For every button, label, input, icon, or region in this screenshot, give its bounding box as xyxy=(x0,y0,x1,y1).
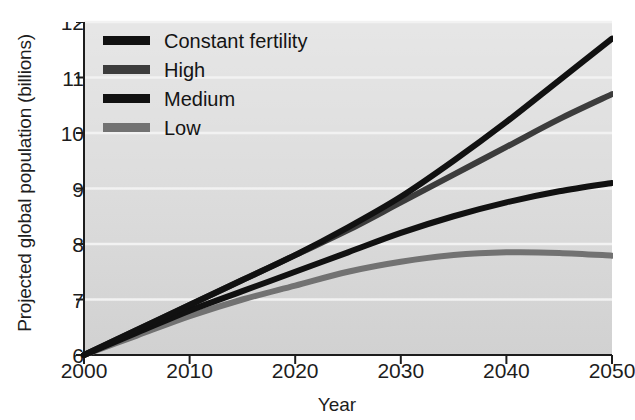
chart-legend: Constant fertilityHighMediumLow xyxy=(103,26,333,142)
x-axis-tick-label: 2050 xyxy=(589,360,635,381)
legend-item: Constant fertility xyxy=(103,26,333,55)
legend-item: High xyxy=(103,55,333,84)
legend-item-label: Medium xyxy=(164,89,235,109)
top-left-mask xyxy=(0,0,84,22)
legend-item-label: High xyxy=(164,60,205,80)
x-axis-label-text: Year xyxy=(272,394,356,415)
x-axis-tick-label: 2040 xyxy=(483,360,530,381)
x-axis-label: Year xyxy=(0,394,628,416)
x-axis-tick-label: 2010 xyxy=(166,360,213,381)
right-margin-mask xyxy=(613,0,628,420)
legend-swatch-icon xyxy=(103,123,150,132)
legend-swatch-icon xyxy=(103,36,150,45)
legend-swatch-icon xyxy=(103,94,150,103)
legend-item: Low xyxy=(103,113,333,142)
legend-item-label: Low xyxy=(164,118,201,138)
legend-item-label: Constant fertility xyxy=(164,31,307,51)
legend-item: Medium xyxy=(103,84,333,113)
x-axis-tick-label: 2020 xyxy=(272,360,319,381)
x-axis-tick-label: 2030 xyxy=(377,360,424,381)
legend-swatch-icon xyxy=(103,65,150,74)
x-axis-tick-label: 2000 xyxy=(61,360,108,381)
